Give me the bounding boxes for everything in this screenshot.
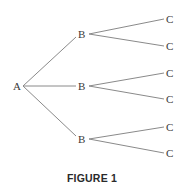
edge-b1-c1 (89, 19, 164, 34)
leaf-edges (89, 19, 164, 153)
edge-b3-c6 (89, 139, 164, 153)
edge-b1-c2 (89, 34, 164, 46)
tree-diagram: A B B B C C C C C C FIGURE 1 (0, 0, 185, 194)
edge-a-b3 (23, 86, 76, 136)
edge-b2-c4 (89, 86, 164, 99)
node-a: A (13, 80, 21, 92)
node-c-5: C (166, 121, 173, 133)
node-b-middle: B (78, 80, 85, 92)
node-c-2: C (166, 40, 173, 52)
root-edges (23, 37, 76, 136)
edge-b3-c5 (89, 127, 164, 139)
edge-a-b1 (23, 37, 76, 86)
node-b-top: B (78, 28, 85, 40)
node-c-1: C (166, 13, 173, 25)
node-c-3: C (166, 67, 173, 79)
node-b-bottom: B (78, 133, 85, 145)
figure-caption: FIGURE 1 (67, 172, 117, 184)
edge-b2-c3 (89, 73, 164, 86)
node-c-6: C (166, 147, 173, 159)
node-c-4: C (166, 93, 173, 105)
